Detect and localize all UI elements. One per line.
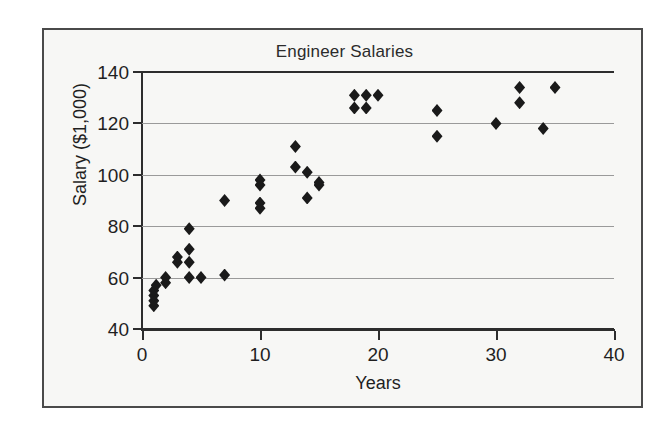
x-tick-30 [496, 331, 498, 340]
x-tick-label-30: 30 [466, 345, 526, 364]
data-point [290, 140, 301, 153]
x-tick-10 [260, 331, 262, 340]
y-tick-40 [133, 328, 142, 330]
y-tick-140 [133, 71, 142, 73]
x-axis-title: Years [142, 373, 614, 394]
x-tick-label-10: 10 [230, 345, 290, 364]
data-point [184, 256, 195, 269]
y-tick-100 [133, 174, 142, 176]
data-point [184, 222, 195, 235]
data-point [219, 269, 230, 282]
data-point [373, 89, 384, 102]
gridline-y-140 [142, 71, 614, 73]
data-point [432, 104, 443, 117]
data-point [184, 243, 195, 256]
gridline-y-60 [142, 278, 614, 279]
data-point [302, 166, 313, 179]
data-point [514, 81, 525, 94]
y-tick-80 [133, 225, 142, 227]
plot-box [142, 72, 614, 329]
x-tick-40 [614, 331, 616, 340]
gridline-y-100 [142, 175, 614, 176]
data-point [349, 89, 360, 102]
x-tick-label-40: 40 [584, 345, 644, 364]
figure-frame: Engineer Salaries 4060801001201400102030… [42, 28, 643, 408]
data-point [290, 161, 301, 174]
data-point [184, 271, 195, 284]
data-point [361, 89, 372, 102]
data-point [196, 271, 207, 284]
chart-title: Engineer Salaries [44, 42, 645, 62]
y-tick-120 [133, 122, 142, 124]
x-tick-0 [142, 331, 144, 340]
data-point [302, 191, 313, 204]
y-axis-title: Salary ($1,000) [70, 15, 91, 275]
x-tick-label-0: 0 [112, 345, 172, 364]
x-tick-20 [378, 331, 380, 340]
x-tick-label-20: 20 [348, 345, 408, 364]
data-point [491, 117, 502, 130]
gridline-y-40 [142, 328, 614, 330]
gridline-y-80 [142, 226, 614, 227]
data-point [361, 101, 372, 114]
data-point [550, 81, 561, 94]
y-tick-60 [133, 277, 142, 279]
data-point [219, 194, 230, 207]
data-point [432, 130, 443, 143]
data-point [514, 96, 525, 109]
data-point [314, 176, 325, 189]
chart-canvas: Engineer Salaries 4060801001201400102030… [44, 30, 645, 410]
data-point [349, 101, 360, 114]
y-tick-label-40: 40 [71, 320, 129, 339]
scan-page-background: Engineer Salaries 4060801001201400102030… [0, 0, 668, 431]
